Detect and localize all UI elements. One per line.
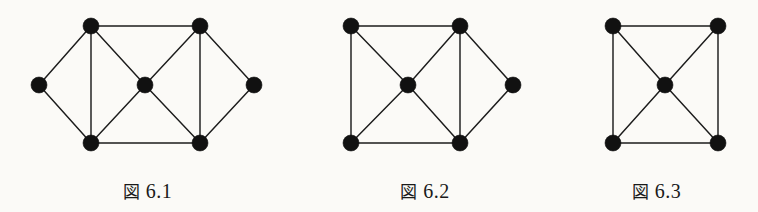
graph-edge <box>408 85 460 143</box>
figure-6-2-graph <box>295 0 555 170</box>
figure-6-3-block: 図 6.3 <box>555 0 758 212</box>
graph-vertex-top-right <box>710 18 726 34</box>
graph-edge <box>91 26 145 85</box>
figure-6-1-caption-number: 6.1 <box>146 180 173 202</box>
graph-vertex-bottom-right <box>710 135 726 151</box>
graph-edge <box>200 85 254 143</box>
figure-6-3-graph <box>555 0 758 170</box>
graph-vertex-left <box>31 77 47 93</box>
figure-6-1-caption-kanji: 図 <box>123 182 141 202</box>
graph-vertex-top-right <box>192 18 208 34</box>
figure-6-3-caption-number: 6.3 <box>655 180 682 202</box>
graph-edge <box>39 26 91 85</box>
graph-edge <box>460 85 513 143</box>
figure-6-2-svg <box>295 0 555 170</box>
graph-edge <box>408 26 460 85</box>
graph-vertex-top-right <box>452 18 468 34</box>
graph-vertex-bottom-left <box>605 135 621 151</box>
graph-vertex-bottom-right <box>452 135 468 151</box>
figure-6-2-caption-number: 6.2 <box>423 180 450 202</box>
graph-edge <box>145 26 200 85</box>
graph-vertex-top-left <box>83 18 99 34</box>
graph-edge <box>91 85 145 143</box>
figure-page: 図 6.1 図 6.2 図 6.3 <box>0 0 758 212</box>
figure-6-1-svg <box>0 0 295 170</box>
graph-vertex-center <box>657 77 673 93</box>
graph-edge <box>351 26 408 85</box>
graph-edge <box>665 85 718 143</box>
graph-vertex-top-left <box>605 18 621 34</box>
figure-6-3-caption-kanji: 図 <box>632 182 650 202</box>
graph-edge <box>145 85 200 143</box>
graph-edge <box>200 26 254 85</box>
graph-vertex-right <box>246 77 262 93</box>
graph-vertex-center <box>400 77 416 93</box>
graph-edge <box>665 26 718 85</box>
figure-6-2-caption-kanji: 図 <box>400 182 418 202</box>
graph-vertex-top-left <box>343 18 359 34</box>
figure-6-1-block: 図 6.1 <box>0 0 295 212</box>
figure-6-3-caption: 図 6.3 <box>555 178 758 203</box>
graph-vertex-bottom-right <box>192 135 208 151</box>
graph-edge <box>39 85 91 143</box>
graph-edge <box>351 85 408 143</box>
figure-6-2-caption: 図 6.2 <box>295 178 555 203</box>
graph-edge <box>613 26 665 85</box>
figure-6-1-caption: 図 6.1 <box>0 178 295 203</box>
graph-vertex-center <box>137 77 153 93</box>
graph-vertex-right <box>505 77 521 93</box>
graph-vertex-bottom-left <box>83 135 99 151</box>
figure-6-1-graph <box>0 0 295 170</box>
graph-vertex-bottom-left <box>343 135 359 151</box>
figure-6-2-block: 図 6.2 <box>295 0 555 212</box>
figure-6-3-svg <box>555 0 758 170</box>
graph-edge <box>613 85 665 143</box>
graph-edge <box>460 26 513 85</box>
